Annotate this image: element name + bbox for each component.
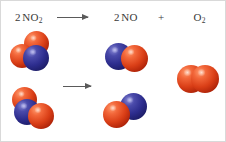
nitrogen-atom <box>23 45 49 71</box>
oxygen-atom <box>191 65 219 93</box>
nitric-oxide-model-1 <box>105 41 149 75</box>
nitric-oxide-model-2 <box>103 93 147 129</box>
reactant-formula: NO <box>22 11 39 23</box>
equation-reactant: 2NO2 <box>15 12 43 25</box>
product1-formula: NO <box>121 11 138 23</box>
reactant-coefficient: 2 <box>15 11 21 23</box>
reactant-subscript: 2 <box>39 16 43 25</box>
product2-formula: O <box>194 11 202 23</box>
equation-product-two: O2 <box>192 12 206 25</box>
nitrogen-dioxide-model-1 <box>10 31 58 77</box>
dioxygen-model <box>177 65 219 95</box>
product1-coefficient: 2 <box>114 11 120 23</box>
nitrogen-dioxide-model-2 <box>10 87 58 135</box>
model-arrow-icon <box>63 86 91 87</box>
reaction-figure: 2NO2 2NO + O2 <box>0 0 226 142</box>
oxygen-atom <box>28 103 54 129</box>
equation-plus-sign: + <box>158 12 165 23</box>
equation-arrow-icon <box>57 17 88 18</box>
equation-product-one: 2NO <box>114 12 138 25</box>
oxygen-atom <box>121 45 148 72</box>
oxygen-atom <box>103 101 130 128</box>
product2-subscript: 2 <box>202 16 206 25</box>
